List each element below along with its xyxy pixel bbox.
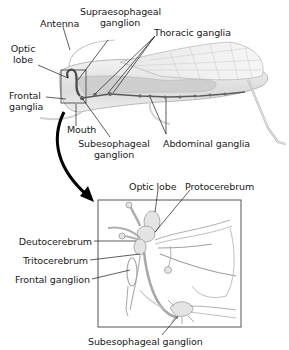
label-abdominal-ganglia: Abdominal ganglia xyxy=(163,138,250,149)
label-optic-lobe: Optic lobe xyxy=(8,43,38,65)
label-antenna: Antenna xyxy=(40,18,79,29)
label-frontal-ganglia: Frontal ganglia xyxy=(9,90,43,112)
arrow-head xyxy=(80,186,94,202)
label-inset-tritocerebrum: Tritocerebrum xyxy=(10,255,88,266)
label-inset-deutocerebrum: Deutocerebrum xyxy=(10,236,92,247)
label-mouth: Mouth xyxy=(67,124,96,135)
label-inset-protocerebrum: Protocerebrum xyxy=(185,181,254,192)
label-supraesophageal-ganglion: Supraesophageal ganglion xyxy=(80,6,160,28)
label-inset-optic-lobe: Optic lobe xyxy=(129,181,176,192)
label-subesophageal-ganglion: Subesophageal ganglion xyxy=(78,138,150,160)
grasshopper-nervous-system-diagram: Antenna Supraesophageal ganglion Thoraci… xyxy=(0,0,289,350)
label-inset-subesophageal-ganglion: Subesophageal ganglion xyxy=(88,336,203,347)
label-inset-frontal-ganglion: Frontal ganglion xyxy=(6,274,90,285)
label-thoracic-ganglia: Thoracic ganglia xyxy=(154,27,231,38)
diagram-artwork xyxy=(0,0,289,350)
